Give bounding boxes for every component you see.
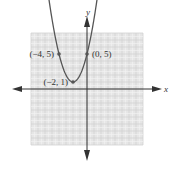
parabola-chart: x y (−4, 5)(0, 5)(−2, 1) xyxy=(0,0,170,169)
point-label: (−2, 1) xyxy=(43,77,68,87)
point-label: (0, 5) xyxy=(92,49,112,59)
y-axis-label: y xyxy=(85,7,90,17)
x-axis-arrow-right xyxy=(152,86,162,92)
data-point xyxy=(71,80,75,84)
x-axis-label: x xyxy=(163,84,168,94)
y-axis-arrow-up xyxy=(84,16,90,27)
y-axis-arrow-down xyxy=(84,150,90,161)
point-label: (−4, 5) xyxy=(29,49,54,59)
x-axis-arrow-left xyxy=(12,86,22,92)
data-point xyxy=(85,52,89,56)
data-point xyxy=(57,52,61,56)
